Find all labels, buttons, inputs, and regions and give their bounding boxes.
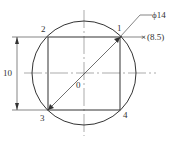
- arrowhead-icon: [15, 37, 19, 44]
- diagram-canvas: × 1 2 3 4 0 ϕ14 (8.5) 10: [0, 0, 177, 142]
- vertex-label-1: 1: [117, 23, 122, 33]
- cross-mark: ×: [141, 32, 146, 42]
- vertex-label-4: 4: [123, 110, 128, 120]
- arrowhead-icon: [114, 37, 120, 43]
- height-label: 10: [3, 68, 13, 78]
- offset-label: (8.5): [147, 32, 164, 42]
- vertex-label-3: 3: [40, 113, 45, 123]
- vertex-label-2: 2: [41, 24, 46, 34]
- diameter-label: ϕ14: [152, 10, 166, 20]
- center-label: 0: [76, 80, 81, 90]
- arrowhead-icon: [15, 103, 19, 110]
